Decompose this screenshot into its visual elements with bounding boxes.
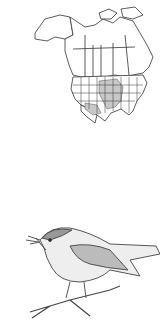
range-map xyxy=(25,5,160,125)
north-america-map-icon xyxy=(25,5,160,125)
bird-icon xyxy=(10,220,160,320)
bird-illustration xyxy=(10,220,160,320)
